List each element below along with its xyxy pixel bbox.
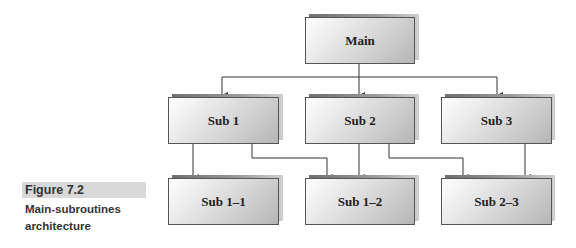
sub2-3-box: Sub 2–3: [441, 178, 552, 225]
figure-caption: Figure 7.2 Main-subroutines architecture: [22, 182, 146, 235]
figure-title-line1: Main-subroutines: [22, 201, 146, 218]
figure-title-line2: architecture: [22, 218, 146, 235]
sub3-box: Sub 3: [441, 97, 552, 144]
sub1-2-box: Sub 1–2: [305, 178, 415, 225]
sub1-1-box: Sub 1–1: [168, 178, 279, 225]
architecture-diagram: Main Sub 1 Sub 2 Sub 3 Sub 1–1 Sub 1–2 S…: [0, 0, 576, 248]
sub1-box: Sub 1: [168, 97, 279, 144]
sub2-box: Sub 2: [305, 97, 415, 144]
main-box: Main: [305, 17, 415, 64]
figure-label: Figure 7.2: [22, 182, 146, 198]
